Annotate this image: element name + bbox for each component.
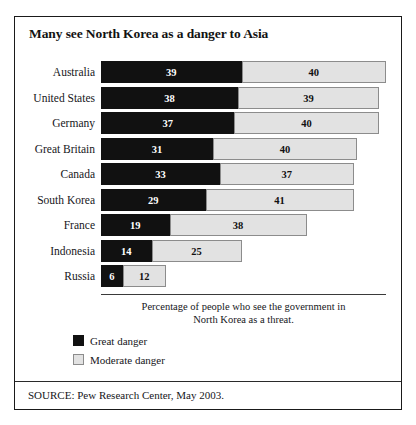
bar-row: Canada3337	[15, 163, 403, 185]
stacked-bar: 3839	[101, 87, 379, 109]
bar-segment-great-danger: 19	[101, 214, 170, 236]
axis-baseline	[101, 294, 386, 295]
bar-row-label: Great Britain	[15, 138, 95, 160]
bar-segment-moderate-danger: 40	[213, 138, 357, 160]
axis-caption-line-1: Percentage of people who see the governm…	[101, 300, 386, 313]
bar-chart-plot: Australia3940United States3839Germany374…	[15, 61, 403, 291]
bar-segment-moderate-danger: 25	[152, 240, 242, 262]
stacked-bar: 1938	[101, 214, 307, 236]
bar-row: Germany3740	[15, 112, 403, 134]
bar-row-label: Canada	[15, 163, 95, 185]
chart-legend: Great dangerModerate danger	[73, 333, 165, 371]
bar-row-label: Australia	[15, 61, 95, 83]
bar-segment-great-danger: 29	[101, 189, 206, 211]
bar-segment-moderate-danger: 40	[242, 61, 386, 83]
legend-item: Great danger	[73, 333, 165, 349]
stacked-bar: 3140	[101, 138, 357, 160]
bar-segment-moderate-danger: 12	[123, 265, 166, 287]
bar-segment-great-danger: 38	[101, 87, 238, 109]
bar-segment-moderate-danger: 41	[206, 189, 354, 211]
bar-row: United States3839	[15, 87, 403, 109]
chart-figure-frame: Many see North Korea as a danger to Asia…	[14, 16, 402, 410]
bar-segment-great-danger: 31	[101, 138, 213, 160]
bar-segment-great-danger: 33	[101, 163, 220, 185]
bar-segment-great-danger: 14	[101, 240, 152, 262]
chart-title: Many see North Korea as a danger to Asia	[29, 26, 268, 42]
legend-label: Moderate danger	[90, 354, 165, 366]
bar-row: France1938	[15, 214, 403, 236]
bar-row-label: United States	[15, 87, 95, 109]
source-note: SOURCE: Pew Research Center, May 2003.	[28, 389, 224, 401]
stacked-bar: 3337	[101, 163, 354, 185]
axis-caption-line-2: North Korea as a threat.	[101, 313, 386, 326]
bar-row-label: Indonesia	[15, 240, 95, 262]
bar-row-label: Russia	[15, 265, 95, 287]
bar-segment-great-danger: 39	[101, 61, 242, 83]
legend-label: Great danger	[90, 335, 147, 347]
legend-swatch-great-danger	[73, 335, 84, 346]
bar-segment-moderate-danger: 40	[234, 112, 378, 134]
bar-row: South Korea2941	[15, 189, 403, 211]
bar-segment-moderate-danger: 38	[170, 214, 307, 236]
stacked-bar: 2941	[101, 189, 354, 211]
stacked-bar: 3740	[101, 112, 379, 134]
stacked-bar: 3940	[101, 61, 386, 83]
axis-caption: Percentage of people who see the governm…	[101, 300, 386, 326]
stacked-bar: 612	[101, 265, 166, 287]
bar-row: Australia3940	[15, 61, 403, 83]
bar-row-label: South Korea	[15, 189, 95, 211]
bar-row: Indonesia1425	[15, 240, 403, 262]
bar-row: Russia612	[15, 265, 403, 287]
bar-segment-moderate-danger: 39	[238, 87, 379, 109]
stacked-bar: 1425	[101, 240, 242, 262]
bar-row-label: France	[15, 214, 95, 236]
legend-swatch-moderate-danger	[73, 354, 84, 365]
bar-segment-great-danger: 37	[101, 112, 234, 134]
bar-row-label: Germany	[15, 112, 95, 134]
source-divider	[15, 381, 401, 382]
legend-item: Moderate danger	[73, 352, 165, 368]
bar-segment-moderate-danger: 37	[220, 163, 353, 185]
bar-segment-great-danger: 6	[101, 265, 123, 287]
bar-row: Great Britain3140	[15, 138, 403, 160]
